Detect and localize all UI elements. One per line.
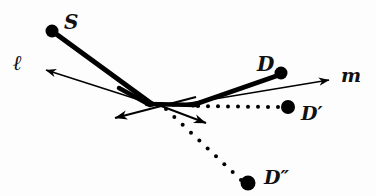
- path-dot: [231, 170, 235, 174]
- path-dot: [266, 105, 270, 109]
- dotted-path-group: [164, 104, 280, 182]
- incident-ray-S-to-vertex: [52, 31, 152, 104]
- thin-arrow-group: [46, 70, 329, 123]
- path-dot: [206, 104, 210, 108]
- dotted-to-D-prime: [196, 104, 280, 109]
- path-dot: [276, 105, 280, 109]
- point-dot-dprime: [281, 100, 295, 114]
- point-dot-dprimeprime: [241, 176, 256, 191]
- path-dot: [206, 146, 210, 150]
- label-line-l: ℓ: [13, 52, 22, 73]
- label-source-s: S: [64, 12, 78, 32]
- label-line-m: m: [341, 66, 361, 85]
- path-dot: [256, 105, 260, 109]
- path-dot: [246, 105, 250, 109]
- label-image-d-double-prime: D″: [264, 168, 289, 187]
- path-dot: [172, 115, 176, 119]
- reflection-diagram: S ℓ D m D′ D″: [0, 0, 376, 196]
- point-dot-s: [46, 25, 59, 38]
- line-l-arrow: [46, 70, 152, 104]
- path-dot: [236, 105, 240, 109]
- path-dot: [226, 104, 230, 108]
- path-dot: [197, 139, 201, 143]
- path-dot: [214, 154, 218, 158]
- path-dot: [189, 131, 193, 135]
- point-dot-d: [275, 67, 288, 80]
- path-dot: [222, 162, 226, 166]
- path-dot: [164, 107, 168, 111]
- label-destination-d: D: [257, 54, 274, 74]
- dotted-to-D-double-prime: [164, 107, 243, 182]
- path-dot: [196, 104, 200, 108]
- path-dot: [216, 104, 220, 108]
- figure-canvas: [0, 0, 376, 196]
- label-image-d-prime: D′: [301, 104, 323, 123]
- path-dot: [181, 123, 185, 127]
